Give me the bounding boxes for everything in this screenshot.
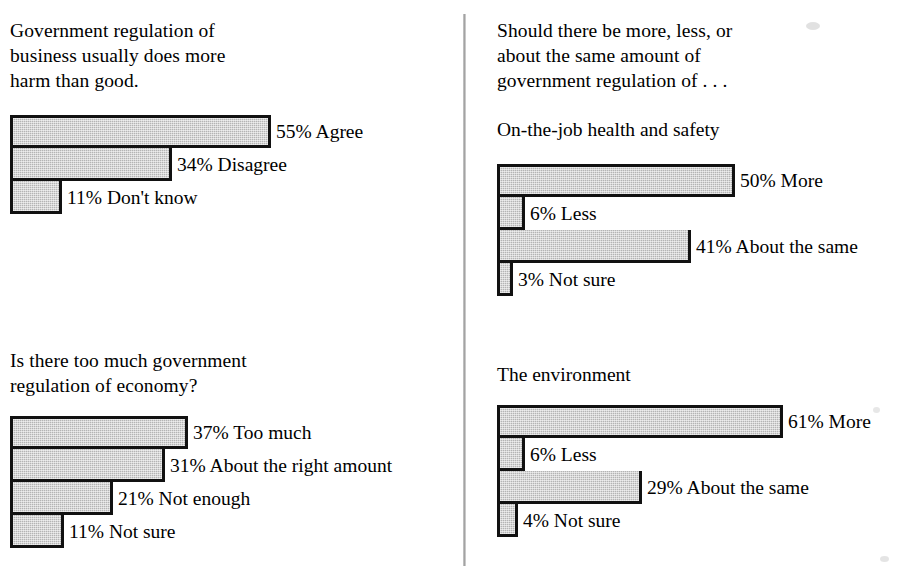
bar-about-the-same [497,471,642,504]
bar-row: 37% Too much [10,416,450,449]
bar-about-the-same [497,230,691,263]
bar-chart-on-the-job-health-and-safety: 50% More 6% Less 41% About the same 3% N… [497,164,909,296]
column-divider-rule [463,14,466,566]
bar-label: 6% Less [525,438,597,471]
bar-row: 50% More [497,164,909,197]
bar-chart-the-environment: 61% More 6% Less 29% About the same 4% N… [497,405,909,537]
scan-speck [806,22,820,30]
bar-row: 3% Not sure [497,263,909,296]
bar-row: 31% About the right amount [10,449,450,482]
bar-row: 6% Less [497,438,909,471]
bar-not-sure [497,263,513,296]
bar-chart-regulation-harm: 55% Agree 34% Disagree 11% Don't know [10,115,450,214]
bar-label: 34% Disagree [172,148,287,181]
bar-row: 4% Not sure [497,504,909,537]
panel-question-text: Should there be more, less, or about the… [497,18,909,93]
bar-row: 34% Disagree [10,148,450,181]
panel-government-regulation-harm: Government regulation of business usuall… [10,18,450,214]
bar-chart-too-much-regulation: 37% Too much 31% About the right amount … [10,416,450,548]
bar-about-right [10,449,165,482]
bar-label: 41% About the same [691,230,858,263]
bar-label: 50% More [735,164,823,197]
bar-label: 61% More [783,405,871,438]
bar-less [497,438,525,471]
panel-subheading: The environment [497,362,909,387]
bar-row: 6% Less [497,197,909,230]
bar-not-enough [10,482,113,515]
bar-agree [10,115,271,148]
bar-disagree [10,148,172,181]
bar-row: 29% About the same [497,471,909,504]
bar-row: 55% Agree [10,115,450,148]
bar-too-much [10,416,188,449]
bar-dont-know [10,181,62,214]
bar-label: 29% About the same [642,471,809,504]
bar-label: 37% Too much [188,416,312,449]
bar-row: 61% More [497,405,909,438]
bar-label: 6% Less [525,197,597,230]
bar-row: 11% Don't know [10,181,450,214]
panel-on-the-job-health-and-safety: Should there be more, less, or about the… [497,18,909,296]
panel-too-much-regulation: Is there too much government regulation … [10,348,450,548]
bar-label: 55% Agree [271,115,363,148]
panel-question-text: Is there too much government regulation … [10,348,450,398]
bar-label: 4% Not sure [518,504,620,537]
bar-row: 41% About the same [497,230,909,263]
bar-less [497,197,525,230]
bar-label: 31% About the right amount [165,449,392,482]
scan-speck [873,407,880,413]
bar-more [497,405,783,438]
panel-the-environment: The environment 61% More 6% Less 29% Abo… [497,362,909,537]
bar-label: 11% Don't know [62,181,198,214]
bar-row: 21% Not enough [10,482,450,515]
panel-question-text: Government regulation of business usuall… [10,18,450,93]
bar-not-sure [497,504,518,537]
bar-label: 11% Not sure [64,515,176,548]
bar-not-sure [10,515,64,548]
bar-row: 11% Not sure [10,515,450,548]
bar-label: 3% Not sure [513,263,615,296]
bar-more [497,164,735,197]
poll-results-figure: Government regulation of business usuall… [0,0,914,580]
bar-label: 21% Not enough [113,482,250,515]
scan-speck [880,556,889,562]
panel-subheading: On-the-job health and safety [497,117,909,142]
